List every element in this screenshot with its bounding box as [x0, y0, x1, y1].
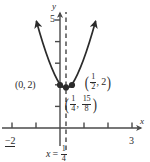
- parabola-figure: y x 5 −2 3 (0, 2) (12, 2) (14, 158) x = …: [0, 0, 150, 162]
- fraction-one-half: 12: [90, 73, 96, 91]
- fraction-one-quarter: 14: [61, 145, 67, 162]
- left-paren: (: [85, 77, 89, 88]
- fraction-one-quarter: 14: [70, 95, 76, 113]
- y-axis-label: y: [52, 2, 56, 11]
- left-paren: (: [65, 99, 69, 110]
- x-tick-label-3: 3: [129, 136, 134, 146]
- fraction-fifteen-eighths: 158: [82, 95, 92, 113]
- x-axis: [2, 123, 141, 129]
- right-paren: ): [107, 77, 111, 88]
- y-tick-label-5: 5: [50, 14, 55, 24]
- y-axis-ticks: [55, 20, 60, 106]
- x-axis-ticks: [12, 123, 132, 129]
- label-vertex: (14, 158): [64, 95, 98, 113]
- label-y-intercept: (0, 2): [15, 80, 35, 90]
- second-coordinate: 2: [101, 77, 106, 87]
- comma: ,: [77, 99, 82, 109]
- label-symmetric-point: (12, 2): [84, 73, 112, 91]
- axis-of-symmetry-equation: x = 14: [46, 145, 67, 162]
- equals-sign: =: [50, 149, 60, 159]
- x-axis-label: x: [140, 117, 144, 126]
- x-tick-label-negative-2: −2: [5, 136, 15, 147]
- right-paren: ): [93, 99, 97, 110]
- point-symmetric: [69, 82, 75, 88]
- point-vertex: [63, 84, 69, 90]
- point-y-intercept: [57, 82, 63, 88]
